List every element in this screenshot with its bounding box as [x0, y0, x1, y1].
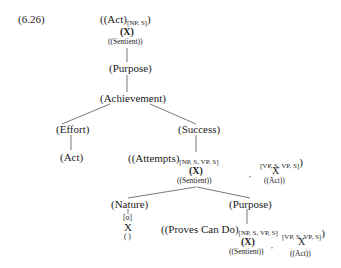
attempts-label: ((Attempts) [128, 152, 179, 164]
proves-var2: X [298, 237, 305, 247]
proves-label: ((Proves Can Do) [161, 223, 239, 235]
root-role: ((Sentient)) [108, 38, 143, 46]
attempts-var2: X [272, 166, 279, 176]
node-achievement: (Achievement) [100, 93, 166, 104]
proves-role2: ((Act)) [290, 250, 311, 258]
proves-close: ) [321, 227, 325, 239]
proves-comma: , [271, 242, 273, 250]
attempts-role2: ((Act)) [264, 177, 285, 185]
root-close: ) [147, 13, 151, 25]
nature-label: (Nature) [111, 199, 148, 210]
nature-role: ( ) [124, 233, 131, 241]
proves-role1: ((Sentient)) [229, 248, 264, 256]
proves-var1: (X) [241, 237, 255, 247]
attempts-comma: , [249, 171, 251, 179]
attempts-role1: ((Sentient)) [177, 177, 212, 185]
node-success: (Success) [178, 124, 220, 135]
attempts-sub2: [VP, S, VP, S] [260, 162, 299, 170]
attempts-var1: (X) [189, 166, 203, 176]
root-var: (X) [120, 27, 134, 37]
node-effort: (Effort) [56, 124, 89, 135]
example-number: (6.26) [18, 14, 45, 25]
node-act: (Act) [60, 152, 83, 163]
node-purpose-1: (Purpose) [109, 63, 152, 74]
node-purpose-2: (Purpose) [229, 199, 272, 210]
root-label: ((Act) [100, 13, 127, 25]
attempts-close: ) [299, 156, 303, 168]
